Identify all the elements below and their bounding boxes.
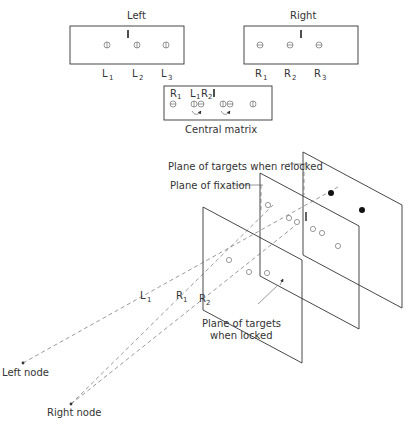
svg-text:3: 3: [168, 74, 172, 82]
central-matrix: R 1 L 1 R 2 Central matrix: [164, 86, 272, 135]
svg-text:2: 2: [292, 74, 296, 82]
svg-text:2: 2: [206, 299, 210, 307]
label-right-node: Right node: [47, 407, 101, 418]
svg-text:1: 1: [196, 93, 200, 101]
right-panel: Right R 1 R 2 R 3: [244, 10, 358, 82]
svg-text:2: 2: [208, 93, 212, 101]
left-title: Left: [127, 10, 146, 21]
label-locked-plane-1: Plane of targets: [202, 318, 281, 329]
left-targets: [104, 42, 169, 48]
svg-text:R: R: [199, 293, 206, 304]
svg-text:2: 2: [139, 74, 143, 82]
right-targets: [257, 42, 322, 48]
label-fixation-plane: Plane of fixation: [170, 180, 251, 191]
svg-text:R: R: [176, 290, 183, 301]
label-locked-plane-2: when locked: [210, 330, 273, 341]
svg-text:1: 1: [109, 74, 113, 82]
stereo-diagram: Left L 1 L 2 L 3 Right R 1 R 2 R 3 R: [0, 0, 412, 426]
right-node-point: [70, 403, 73, 406]
label-l2: L: [132, 68, 138, 79]
label-l1: L: [102, 68, 108, 79]
svg-text:3: 3: [322, 74, 326, 82]
svg-text:1: 1: [263, 74, 267, 82]
planes-diagram: Plane of targets when relocked Plane of …: [2, 152, 402, 418]
svg-text:L: L: [140, 290, 146, 301]
label-relocked-plane: Plane of targets when relocked: [168, 161, 323, 172]
label-r3: R: [314, 68, 321, 79]
left-panel: Left L 1 L 2 L 3: [70, 10, 184, 82]
svg-text:R: R: [170, 88, 177, 99]
svg-text:1: 1: [183, 296, 187, 304]
label-r1: R: [255, 68, 262, 79]
svg-text:R: R: [201, 88, 208, 99]
left-node-point: [22, 362, 25, 365]
svg-text:1: 1: [147, 296, 151, 304]
label-r2: R: [284, 68, 291, 79]
svg-text:1: 1: [177, 93, 181, 101]
central-matrix-caption: Central matrix: [185, 124, 257, 135]
label-l3: L: [161, 68, 167, 79]
right-title: Right: [290, 10, 316, 21]
label-left-node: Left node: [2, 367, 49, 378]
